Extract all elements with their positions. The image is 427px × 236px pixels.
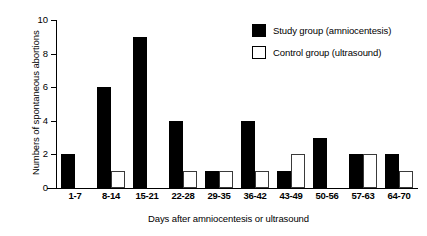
y-tick-label: 10 <box>28 15 48 25</box>
bar-study-group <box>349 154 363 188</box>
bar-study-group <box>385 154 399 188</box>
y-tick-label: 6 <box>28 82 48 92</box>
spontaneous-abortions-bar-chart: Numbers of spontaneous abortions 0246810… <box>0 0 427 236</box>
bar-study-group <box>97 87 111 188</box>
legend-swatch-study-icon <box>252 24 266 37</box>
bar-control-group <box>255 171 269 188</box>
bar-control-group <box>219 171 233 188</box>
bar-control-group <box>291 154 305 188</box>
legend-label-study: Study group (amniocentesis) <box>273 26 391 36</box>
x-axis-title: Days after amniocentesis or ultrasound <box>0 214 427 224</box>
bar-control-group <box>363 154 377 188</box>
y-tick-mark <box>51 188 57 189</box>
bar-study-group <box>313 138 327 188</box>
bar-control-group <box>111 171 125 188</box>
bar-study-group <box>205 171 219 188</box>
bar-study-group <box>169 121 183 188</box>
legend-swatch-control-icon <box>252 46 266 59</box>
bar-control-group <box>399 171 413 188</box>
bar-group <box>97 20 125 188</box>
bar-study-group <box>241 121 255 188</box>
y-tick-label: 8 <box>28 49 48 59</box>
y-axis-title: Numbers of spontaneous abortions <box>31 18 41 188</box>
legend-label-control: Control group (ultrasound) <box>273 48 381 58</box>
x-tick-label: 64-70 <box>369 191 427 201</box>
y-tick-label: 2 <box>28 150 48 160</box>
bar-study-group <box>61 154 75 188</box>
bar-study-group <box>277 171 291 188</box>
bar-group <box>61 20 89 188</box>
bar-group <box>169 20 197 188</box>
legend-entry-control: Control group (ultrasound) <box>252 46 391 59</box>
y-tick-label: 4 <box>28 116 48 126</box>
bar-study-group <box>133 37 147 188</box>
bar-control-group <box>183 171 197 188</box>
bar-group <box>205 20 233 188</box>
bar-group <box>133 20 161 188</box>
legend-entry-study: Study group (amniocentesis) <box>252 24 391 37</box>
chart-legend: Study group (amniocentesis) Control grou… <box>252 24 391 68</box>
x-axis-line <box>47 188 418 189</box>
